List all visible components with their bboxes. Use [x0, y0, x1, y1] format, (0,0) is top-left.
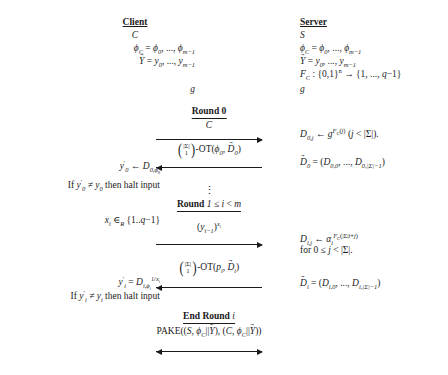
server-note-dij-range: for 0 ≤ j < |Σ|.: [300, 245, 353, 256]
client-note-halti: If y′i ≠ yi then halt input: [71, 291, 160, 302]
client-note-y0: y′0 ← D0,ϕ0: [120, 161, 160, 173]
round-i-message-yx: (yi−1)xi: [197, 222, 221, 233]
end-round-message-pake: PAKE((S, ϕC||Y), (C, ϕC||Y)): [157, 326, 262, 337]
client-column-title: Client: [123, 17, 148, 28]
server-note-dij: Di,j ← αiFC(|Σ|i+j): [300, 234, 358, 245]
client-generator: g: [190, 84, 195, 95]
client-yvec-line: Y = y0, ..., ym−1: [139, 56, 195, 67]
server-note-dvec0: D0 = (D0,0, ..., D0,|Σ|−1): [300, 157, 385, 168]
server-note-d0j: D0,j ← gFC(j) (j < |Σ|).: [300, 129, 379, 140]
server-note-dveci: Di = (Di,0, ..., Di,|Σ|−1): [300, 278, 381, 289]
round-i-label: Round 1 ≤ i < m: [177, 199, 241, 212]
client-note-yi: y′i = Di,ϕi1/xi: [118, 277, 160, 289]
server-generator: g: [300, 84, 305, 95]
client-note-halt0: If y′0 ≠ y0 then halt input: [68, 180, 160, 191]
arrow-end-round-bidirectional: [156, 347, 262, 356]
client-note-xi: xi ∈R {1..q−1}: [105, 215, 160, 226]
arrow-round0-ot-to-client: [156, 163, 262, 172]
round-i-message-ot: (|Σ|1)-OT(pi, Di): [179, 261, 240, 274]
round-0-message-c: C: [206, 120, 212, 131]
vertical-dots-separator: ⋮: [204, 184, 215, 197]
arrow-roundi-ot-to-client: [156, 283, 262, 292]
arrow-roundi-client-to-server: [156, 240, 262, 249]
server-yvec-line: Y = y0, ..., ym−1: [300, 56, 356, 67]
protocol-diagram: Client C ϕC = ϕ0, ..., ϕm−1 Y = y0, ...,…: [0, 0, 448, 375]
round-0-message-ot: (|Σ|1)-OT(ϕ0, D0): [177, 143, 241, 156]
server-identity: S: [300, 30, 305, 41]
client-identity: C: [132, 30, 138, 41]
server-fc-line: FC : {0,1}n → {1, ..., q−1}: [300, 69, 401, 80]
round-0-label: Round 0: [192, 106, 227, 119]
server-phi-line: ϕC = ϕ0, ..., ϕm−1: [300, 43, 361, 54]
server-column-title: Server: [300, 17, 327, 28]
